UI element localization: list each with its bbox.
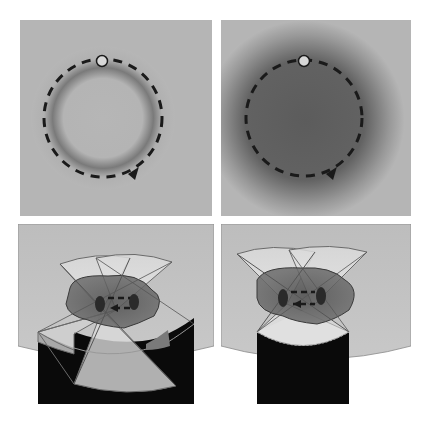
panel-top-right [221,20,411,216]
start-marker-icon [299,56,310,67]
right-marker-icon [129,294,139,310]
panel-top-left [20,20,212,216]
ring-halo [31,46,175,190]
left-marker-icon [95,296,105,312]
left-marker-icon [278,289,288,307]
right-marker-icon [316,287,326,305]
panel-bottom-left [18,224,214,406]
start-marker-icon [97,56,108,67]
panel-bottom-right [221,224,411,406]
